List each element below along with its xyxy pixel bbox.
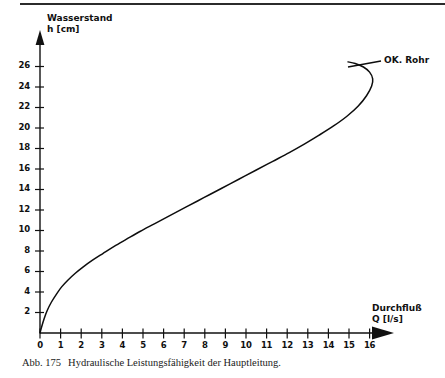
y-axis-title-unit: h [cm]: [47, 24, 113, 35]
x-tick-label: 12: [277, 340, 297, 350]
y-tick-label: 22: [6, 101, 30, 111]
x-axis-title-name: Durchfluß: [372, 303, 422, 314]
x-tick-label: 3: [92, 340, 112, 350]
y-tick-label: 8: [6, 245, 30, 255]
figure-container: 26 24 22 20 18 16 14 12 10 8 6 4 2 0 1 2…: [0, 0, 445, 378]
annotation-leader-line: [348, 61, 381, 67]
x-tick-label: 14: [318, 340, 338, 350]
y-axis-title-name: Wasserstand: [47, 13, 113, 24]
y-tick-label: 2: [6, 306, 30, 316]
y-tick-label: 12: [6, 204, 30, 214]
x-tick-label: 9: [215, 340, 235, 350]
x-tick-label: 0: [30, 340, 50, 350]
arrow-right-icon: [372, 327, 394, 340]
x-tick-label: 1: [51, 340, 71, 350]
y-tick-label: 20: [6, 122, 30, 132]
x-tick-label: 6: [154, 340, 174, 350]
x-tick-label: 15: [339, 340, 359, 350]
y-tick-label: 10: [6, 224, 30, 234]
x-tick-label: 10: [236, 340, 256, 350]
x-axis-title-unit: Q [l/s]: [372, 314, 422, 325]
x-tick-label: 16: [360, 340, 380, 350]
figure-caption-number: Abb. 175: [22, 357, 61, 368]
y-tick-label: 18: [6, 142, 30, 152]
y-tick-label: 24: [6, 81, 30, 91]
x-tick-label: 2: [71, 340, 91, 350]
chart-plot-area: [0, 0, 445, 352]
x-tick-label: 4: [112, 340, 132, 350]
y-tick-label: 16: [6, 163, 30, 173]
y-axis-title: Wasserstand h [cm]: [47, 13, 113, 35]
x-tick-label: 8: [195, 340, 215, 350]
annotation-ok-rohr: OK. Rohr: [384, 55, 429, 65]
y-tick-label: 4: [6, 286, 30, 296]
arrow-up-icon: [36, 30, 45, 45]
y-tick-label: 6: [6, 265, 30, 275]
x-tick-label: 11: [257, 340, 277, 350]
figure-caption-text: Hydraulische Leistungsfähigkeit der Haup…: [68, 357, 281, 368]
y-tick-label: 14: [6, 183, 30, 193]
data-curve: [40, 62, 373, 333]
figure-caption: Abb. 175Hydraulische Leistungsfähigkeit …: [22, 357, 281, 368]
x-axis-title: Durchfluß Q [l/s]: [372, 303, 422, 325]
y-tick-label: 26: [6, 60, 30, 70]
x-tick-label: 5: [133, 340, 153, 350]
x-tick-label: 7: [174, 340, 194, 350]
x-tick-label: 13: [298, 340, 318, 350]
